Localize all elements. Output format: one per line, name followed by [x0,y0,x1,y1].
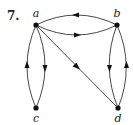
arrowhead-up-icon [25,61,30,68]
arrowhead-down-icon [43,65,48,72]
node-a [33,22,38,27]
arrowhead-right-icon [74,33,81,38]
arrowhead-left-icon [72,13,79,18]
arrowhead-down-icon [107,65,112,72]
node-label-a: a [33,7,40,20]
arrowhead-up-icon [124,61,129,68]
node-label-c: c [33,112,39,125]
exercise-number: 7. [7,9,20,23]
directed-graph-figure: 7. a b c d [0,0,133,125]
node-c [33,105,38,110]
node-label-d: d [114,112,121,125]
node-d [115,105,120,110]
node-b [114,22,119,27]
node-label-b: b [113,7,120,20]
